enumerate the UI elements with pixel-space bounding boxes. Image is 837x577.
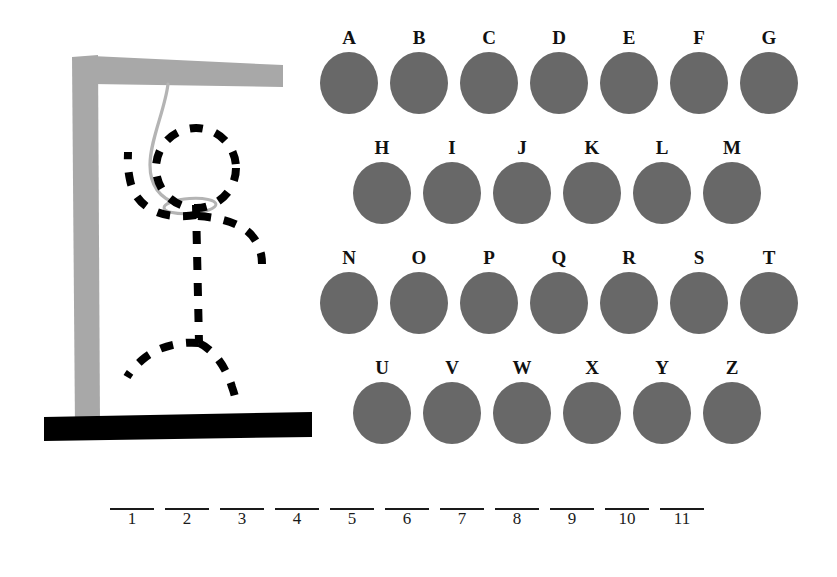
letter-key-i[interactable]: I [423,138,481,238]
letter-key-c[interactable]: C [460,28,518,128]
letter-key-l[interactable]: L [633,138,691,238]
letter-key-v[interactable]: V [423,358,481,458]
letter-key-b[interactable]: B [390,28,448,128]
figure-left-leg-shape [127,343,199,377]
letter-key-y[interactable]: Y [633,358,691,458]
gallows-figure-graphic [0,0,330,470]
letter-button-c[interactable] [460,52,518,114]
letter-key-w[interactable]: W [493,358,551,458]
letter-button-u[interactable] [353,382,411,444]
blank-position-number: 1 [128,510,137,528]
blank-position-number: 5 [348,510,357,528]
letter-key-a[interactable]: A [320,28,378,128]
alphabet-row-2: H I J K L M [353,138,761,238]
letter-button-z[interactable] [703,382,761,444]
word-blank-slot: 9 [550,508,594,528]
letter-key-x[interactable]: X [563,358,621,458]
letter-key-label: B [413,28,426,49]
letter-key-o[interactable]: O [390,248,448,348]
letter-key-label: S [694,248,705,269]
letter-button-v[interactable] [423,382,481,444]
letter-key-t[interactable]: T [740,248,798,348]
letter-key-label: R [622,248,636,269]
figure-right-leg-shape [199,343,236,408]
letter-button-x[interactable] [563,382,621,444]
letter-key-label: Y [655,358,669,379]
gallows-post-shape [72,55,100,428]
word-blank-slot: 5 [330,508,374,528]
letter-button-m[interactable] [703,162,761,224]
letter-key-u[interactable]: U [353,358,411,458]
letter-button-a[interactable] [320,52,378,114]
letter-key-z[interactable]: Z [703,358,761,458]
letter-key-p[interactable]: P [460,248,518,348]
letter-key-label: F [693,28,705,49]
letter-key-label: G [762,28,777,49]
letter-button-i[interactable] [423,162,481,224]
letter-button-k[interactable] [563,162,621,224]
letter-key-d[interactable]: D [530,28,588,128]
letter-key-label: W [513,358,532,379]
letter-button-q[interactable] [530,272,588,334]
letter-button-r[interactable] [600,272,658,334]
letter-button-g[interactable] [740,52,798,114]
letter-key-e[interactable]: E [600,28,658,128]
word-blanks: 1 2 3 4 5 6 7 8 [110,508,704,528]
letter-key-m[interactable]: M [703,138,761,238]
letter-key-label: P [483,248,495,269]
letter-key-h[interactable]: H [353,138,411,238]
letter-button-e[interactable] [600,52,658,114]
figure-head-shape [156,128,236,208]
letter-key-label: T [763,248,776,269]
word-blank-slot: 7 [440,508,484,528]
letter-button-h[interactable] [353,162,411,224]
letter-key-label: X [585,358,599,379]
letter-key-label: L [656,138,669,159]
letter-button-s[interactable] [670,272,728,334]
word-blank-slot: 11 [660,508,704,528]
letter-button-o[interactable] [390,272,448,334]
letter-button-n[interactable] [320,272,378,334]
letter-button-w[interactable] [493,382,551,444]
letter-button-j[interactable] [493,162,551,224]
alphabet-row-4: U V W X Y Z [353,358,761,458]
letter-key-label: M [723,138,741,159]
letter-key-label: A [342,28,356,49]
figure-body-shape [196,205,199,343]
letter-button-t[interactable] [740,272,798,334]
letter-key-f[interactable]: F [670,28,728,128]
letter-key-q[interactable]: Q [530,248,588,348]
blank-position-number: 10 [619,510,636,528]
letter-key-label: H [375,138,390,159]
letter-key-label: U [375,358,389,379]
letter-button-p[interactable] [460,272,518,334]
letter-button-d[interactable] [530,52,588,114]
letter-key-label: E [623,28,636,49]
letter-key-label: C [482,28,496,49]
letter-key-k[interactable]: K [563,138,621,238]
letter-key-j[interactable]: J [493,138,551,238]
letter-key-label: J [517,138,527,159]
letter-key-n[interactable]: N [320,248,378,348]
letter-key-label: V [445,358,459,379]
letter-button-b[interactable] [390,52,448,114]
blank-position-number: 7 [458,510,467,528]
blank-position-number: 8 [513,510,522,528]
blank-position-number: 6 [403,510,412,528]
letter-button-l[interactable] [633,162,691,224]
blank-position-number: 9 [568,510,577,528]
gallows-beam-shape [92,56,283,87]
letter-button-y[interactable] [633,382,691,444]
word-blank-slot: 4 [275,508,319,528]
word-blank-slot: 6 [385,508,429,528]
blank-position-number: 4 [293,510,302,528]
letter-key-r[interactable]: R [600,248,658,348]
figure-right-arm-shape [198,216,262,264]
blank-position-number: 11 [674,510,690,528]
letter-key-label: N [342,248,356,269]
letter-key-s[interactable]: S [670,248,728,348]
gallows-drawing-area [0,0,330,470]
letter-button-f[interactable] [670,52,728,114]
word-blank-slot: 3 [220,508,264,528]
letter-key-g[interactable]: G [740,28,798,128]
